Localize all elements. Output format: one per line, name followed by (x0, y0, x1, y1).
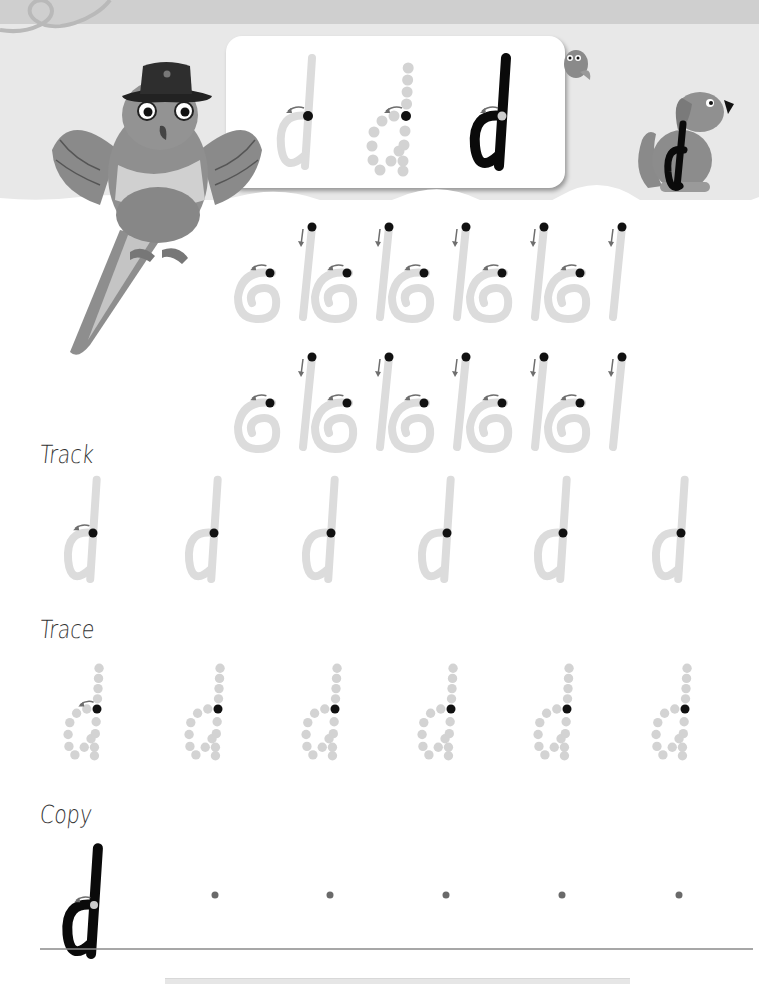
copy-start-dot[interactable] (559, 892, 566, 899)
trace-guide-dot (447, 694, 456, 703)
trace-guide-dot (398, 166, 409, 177)
trace-guide-dot (193, 709, 202, 718)
trace-guide-dot (185, 742, 194, 751)
start-dot-icon (618, 223, 627, 232)
header-swirl-decoration (0, 0, 110, 31)
trace-guide-dot (679, 729, 688, 738)
down-arrow-head-icon (298, 371, 304, 377)
trace-guide-dot (682, 674, 691, 683)
stroke-pair (238, 223, 317, 320)
trace-guide-dot (533, 730, 542, 739)
trace-guide-dot (419, 718, 428, 727)
copy-start-dot[interactable] (327, 892, 334, 899)
start-dot-icon (327, 529, 336, 538)
start-dot-icon (498, 112, 507, 121)
trace-guide-dot (540, 750, 549, 759)
trace-guide-dot (402, 87, 413, 98)
spiral-guide (548, 273, 586, 320)
start-dot-icon (401, 111, 411, 121)
down-arrow-head-icon (452, 241, 458, 247)
trace-guide-dot (542, 709, 551, 718)
trace-guide-dot (94, 674, 103, 683)
trace-guide-dot (328, 751, 337, 760)
copy-start-dot[interactable] (212, 892, 219, 899)
trace-letter-d (63, 664, 103, 761)
trace-guide-dot (212, 729, 221, 738)
stick-guide (303, 227, 312, 317)
arrow-head-icon (404, 395, 410, 400)
trace-guide-dot (448, 664, 457, 673)
trace-guide-dot (679, 717, 688, 726)
start-dot-icon (540, 223, 549, 232)
trace-guide-dot (90, 743, 99, 752)
trace-guide-dot (184, 730, 193, 739)
trace-section-label: Trace (38, 615, 95, 644)
trace-guide-dot (658, 750, 667, 759)
start-dot-icon (498, 399, 507, 408)
start-dot-icon (420, 399, 429, 408)
spiral-guide (392, 273, 430, 320)
start-dot-icon (343, 399, 352, 408)
stick-guide (613, 227, 622, 317)
trace-guide-dot (331, 684, 340, 693)
trace-guide-dot (215, 674, 224, 683)
trace-guide-dot (332, 664, 341, 673)
model-letter-dotted (367, 63, 414, 177)
trace-guide-dot (444, 751, 453, 760)
trace-guide-dot (563, 684, 572, 693)
arrow-head-icon (404, 265, 410, 270)
trace-guide-dot (434, 743, 443, 752)
trace-guide-dot (203, 704, 212, 713)
trace-guide-dot (564, 674, 573, 683)
trace-guide-dot (302, 742, 311, 751)
trace-guide-dot (94, 664, 103, 673)
trace-guide-dot (80, 743, 89, 752)
trace-guide-dot (399, 140, 410, 151)
arrow-head-icon (250, 395, 256, 400)
copy-start-dot[interactable] (676, 892, 683, 899)
trace-guide-dot (214, 684, 223, 693)
trace-guide-dot (651, 730, 660, 739)
copy-letters-row[interactable] (40, 848, 753, 954)
trace-guide-dot (64, 742, 73, 751)
stick-guide (613, 357, 622, 447)
trace-guide-dot (329, 729, 338, 738)
trace-guide-dot (369, 127, 380, 138)
down-arrow-head-icon (530, 241, 536, 247)
start-dot-icon (90, 901, 98, 909)
spiral-guide (548, 403, 586, 450)
start-dot-icon (618, 353, 627, 362)
trace-letter-d (417, 664, 457, 761)
stroke-pair (315, 353, 394, 450)
trace-guide-dot (426, 709, 435, 718)
start-dot-icon (563, 705, 572, 714)
start-dot-icon (331, 705, 340, 714)
arrow-head-icon (73, 525, 79, 530)
stroke-pair (548, 223, 627, 320)
copy-start-dot[interactable] (443, 892, 450, 899)
arrow-head-icon (480, 108, 486, 113)
trace-guide-dot (670, 704, 679, 713)
trace-guide-dot (448, 674, 457, 683)
start-dot-icon (420, 269, 429, 278)
trace-guide-dot (211, 743, 220, 752)
start-dot-icon (681, 705, 690, 714)
track-letter-d (189, 480, 219, 579)
trace-guide-dot (403, 63, 414, 74)
trace-guide-dot (652, 742, 661, 751)
start-dot-icon (462, 353, 471, 362)
start-dot-icon (540, 353, 549, 362)
down-arrow-head-icon (608, 371, 614, 377)
trace-guide-dot (301, 730, 310, 739)
arrow-head-icon (482, 265, 488, 270)
start-dot-icon (93, 705, 102, 714)
model-letter-faint (281, 58, 313, 166)
start-dot-icon (308, 353, 317, 362)
stick-guide (380, 227, 389, 317)
trace-guide-dot (398, 156, 409, 167)
trace-guide-dot (310, 709, 319, 718)
track-letter-d (656, 480, 686, 579)
track-letters-row (68, 480, 686, 579)
stroke-pair (238, 353, 317, 450)
